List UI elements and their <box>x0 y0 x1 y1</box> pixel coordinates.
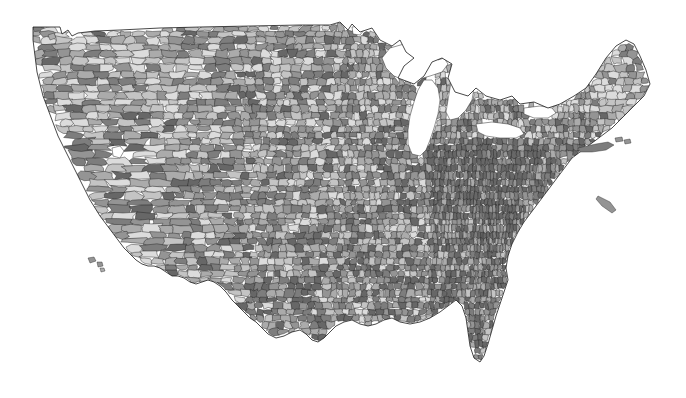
county-polygon <box>355 78 360 85</box>
county-polygon <box>437 270 442 276</box>
county-polygon <box>317 105 326 112</box>
county-polygon <box>435 224 438 234</box>
county-polygon <box>497 164 502 172</box>
county-polygon <box>264 84 274 91</box>
county-polygon <box>460 271 468 277</box>
county-polygon <box>367 302 375 311</box>
county-polygon <box>380 179 389 186</box>
county-polygon <box>290 302 300 311</box>
county-polygon <box>377 224 384 232</box>
county-polygon <box>229 206 241 211</box>
county-polygon <box>443 179 448 185</box>
county-polygon <box>362 71 369 78</box>
county-polygon <box>518 105 524 113</box>
county-polygon <box>70 112 88 119</box>
county-polygon <box>338 179 345 186</box>
county-polygon <box>107 127 120 133</box>
county-polygon <box>267 212 277 220</box>
county-polygon <box>193 192 204 199</box>
county-polygon <box>599 105 614 113</box>
county-polygon <box>83 126 94 132</box>
county-polygon <box>357 165 366 171</box>
county-polygon <box>417 252 425 257</box>
choropleth-map-figure <box>0 0 686 398</box>
county-polygon <box>330 138 339 146</box>
county-polygon <box>389 277 397 284</box>
county-polygon <box>297 126 306 133</box>
county-polygon <box>333 64 340 72</box>
county-polygon <box>230 180 242 186</box>
county-polygon <box>199 178 211 187</box>
county-polygon <box>555 138 563 145</box>
county-polygon <box>135 212 155 220</box>
county-polygon <box>433 171 438 180</box>
county-polygon <box>349 238 358 244</box>
county-polygon <box>535 172 542 181</box>
county-polygon <box>365 232 374 238</box>
county-polygon <box>389 133 396 138</box>
county-polygon <box>491 186 496 192</box>
county-polygon <box>487 113 494 121</box>
county-polygon <box>141 191 161 200</box>
county-polygon <box>69 126 85 133</box>
county-polygon <box>509 232 513 238</box>
county-polygon <box>169 71 186 80</box>
county-polygon <box>515 205 519 212</box>
county-polygon <box>349 251 357 259</box>
county-polygon <box>313 231 321 240</box>
county-polygon <box>410 271 417 277</box>
county-polygon <box>128 171 151 180</box>
county-polygon <box>251 125 260 132</box>
county-polygon <box>392 205 399 212</box>
county-polygon <box>188 65 204 71</box>
county-polygon <box>84 164 104 172</box>
county-polygon <box>487 265 491 271</box>
county-polygon <box>394 126 404 131</box>
county-polygon <box>395 309 403 315</box>
county-polygon <box>542 132 548 137</box>
county-polygon <box>584 104 591 113</box>
county-polygon <box>316 78 327 86</box>
county-polygon <box>290 85 301 92</box>
county-polygon <box>42 50 58 57</box>
county-polygon <box>262 232 270 238</box>
county-polygon <box>234 265 242 272</box>
county-polygon <box>174 258 187 264</box>
county-polygon <box>436 257 442 265</box>
nantucket <box>624 139 631 144</box>
county-polygon <box>493 138 497 144</box>
county-polygon <box>244 164 253 171</box>
county-polygon <box>396 186 404 193</box>
county-polygon <box>468 258 474 265</box>
county-polygon <box>356 252 364 259</box>
county-polygon <box>361 132 370 139</box>
county-polygon <box>240 172 249 180</box>
county-polygon <box>331 43 338 50</box>
county-polygon <box>217 112 228 119</box>
channel-islands-2 <box>97 262 103 267</box>
county-polygon <box>405 265 411 271</box>
county-polygon <box>357 157 366 166</box>
county-polygon <box>206 85 217 92</box>
county-polygon <box>267 111 277 120</box>
county-polygon <box>641 78 648 84</box>
county-polygon <box>121 71 136 78</box>
county-polygon <box>458 157 461 165</box>
county-polygon <box>323 172 331 178</box>
county-polygon <box>605 85 614 91</box>
county-polygon <box>373 119 380 126</box>
county-polygon <box>360 270 365 278</box>
county-polygon <box>432 278 438 283</box>
county-polygon <box>291 205 302 214</box>
county-polygon <box>397 224 406 232</box>
us-county-choropleth-svg <box>0 0 686 398</box>
county-polygon <box>476 171 481 179</box>
county-polygon <box>571 99 580 104</box>
county-polygon <box>97 84 111 91</box>
county-polygon <box>293 257 302 265</box>
county-polygon <box>354 99 359 105</box>
county-polygon <box>130 125 150 132</box>
county-polygon <box>493 244 497 252</box>
county-polygon <box>298 132 308 138</box>
county-polygon <box>363 258 369 265</box>
